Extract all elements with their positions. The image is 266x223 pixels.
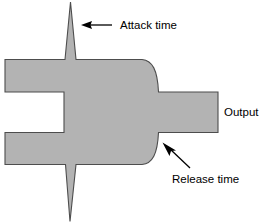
output-label: Output [224,106,259,118]
envelope-waveform-shape [5,2,218,222]
release-time-arrow-shaft [170,149,190,168]
release-time-arrow-head [163,143,177,157]
release-time-label: Release time [172,173,239,185]
attack-time-arrow-head [81,21,92,29]
envelope-diagram: Attack time Output Release time [0,0,266,223]
release-time-arrow [163,143,191,169]
envelope-diagram-canvas: Attack time Output Release time [0,0,266,223]
attack-time-arrow [81,21,112,29]
attack-time-label: Attack time [120,19,177,31]
